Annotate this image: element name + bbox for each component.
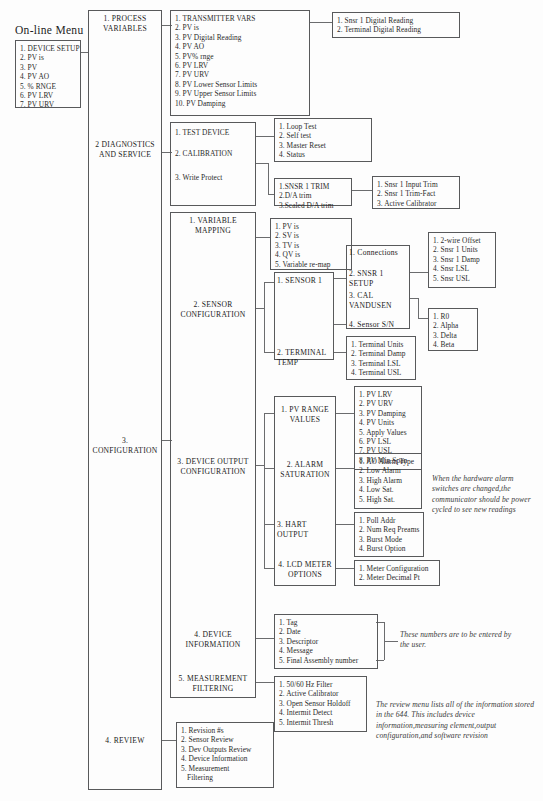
sensor-config-item-sensor1[interactable]: 1. SENSOR 1 — [277, 276, 333, 286]
list-item[interactable]: 1. Snsr 1 Input Trim — [377, 180, 455, 189]
list-item[interactable]: 3. High Alarm — [359, 476, 417, 485]
list-item[interactable]: 3. Dev Outputs Review — [181, 745, 269, 754]
list-item[interactable]: 1. Tag — [279, 618, 373, 627]
list-item[interactable]: 2. Self test — [279, 131, 367, 140]
sensor1-item-cal-vandusen[interactable]: 3. CAL VANDUSEN — [349, 291, 411, 310]
list-item[interactable]: 2. SV is — [275, 231, 347, 240]
list-item[interactable]: 5. Variable re-map — [275, 260, 347, 269]
list-item[interactable]: 10. PV Damping — [175, 99, 305, 108]
list-item[interactable]: 3. Descriptor — [279, 637, 373, 646]
list-item[interactable]: 1. TRANSMITTER VARS — [175, 14, 305, 23]
list-item[interactable]: 6. PV LRV — [20, 91, 76, 100]
list-item[interactable]: 3. PV Digital Reading — [175, 33, 305, 42]
config-item-measurement-filtering[interactable]: 5. MEASUREMENT FILTERING — [170, 674, 256, 693]
sensor1-item-snsr1-setup[interactable]: 2. SNSR 1 SETUP — [349, 269, 409, 288]
list-item[interactable]: 3. PV — [20, 63, 76, 72]
list-item[interactable]: 1. PV LRV — [359, 390, 417, 399]
list-item[interactable]: 2. Meter Decimal Pt — [359, 573, 435, 582]
config-item-variable-mapping[interactable]: 1. VARIABLE MAPPING — [172, 216, 254, 235]
list-item[interactable]: 5. % RNGE — [20, 82, 76, 91]
list-item[interactable]: 3. Open Sensor Holdoff — [279, 699, 362, 708]
list-item[interactable]: 4. PV AO — [20, 72, 76, 81]
list-item[interactable]: 4. Beta — [433, 340, 473, 349]
list-item[interactable]: 2. PV URV — [359, 399, 417, 408]
list-item[interactable]: 7. PV URV — [175, 70, 305, 79]
list-item[interactable]: 4. Snsr LSL — [433, 264, 491, 273]
list-item[interactable]: 1. Loop Test — [279, 122, 367, 131]
list-item[interactable]: 3. Write Protect — [175, 173, 251, 182]
device-output-item-lcd-meter-options[interactable]: 4. LCD METER OPTIONS — [274, 560, 336, 579]
sensor1-item-sensor-sn[interactable]: 4. Sensor S/N — [349, 320, 409, 330]
list-item[interactable]: 4. Intermit Detect — [279, 708, 362, 717]
level1-item-configuration[interactable]: 3. CONFIGURATION — [90, 436, 160, 455]
list-item[interactable]: 5. High Sat. — [359, 495, 417, 504]
list-item[interactable]: 4. QV is — [275, 250, 347, 259]
list-item[interactable]: 5. Snsr USL — [433, 274, 491, 283]
list-item[interactable]: 3. Terminal LSL — [351, 359, 411, 368]
list-item[interactable]: 2. Sensor Review — [181, 735, 269, 744]
list-item[interactable]: 2. CALIBRATION — [175, 149, 251, 158]
list-item[interactable]: 8. PV Lower Sensor Limits — [175, 80, 305, 89]
list-item[interactable]: 1. PV is — [275, 222, 347, 231]
list-item[interactable]: 1. Meter Configuration — [359, 564, 435, 573]
list-item[interactable]: 5. Final Assembly number — [279, 656, 373, 665]
device-output-item-alarm-saturation[interactable]: 2. ALARM SATURATION — [274, 460, 336, 479]
config-item-sensor-configuration[interactable]: 2. SENSOR CONFIGURATION — [172, 300, 254, 319]
list-item[interactable]: 2. Low Alarm — [359, 466, 417, 475]
list-item[interactable]: 2. Num Req Preams — [359, 525, 419, 534]
list-item[interactable]: 3. Master Reset — [279, 141, 367, 150]
list-item[interactable]: 1. 2-wire Offset — [433, 236, 491, 245]
list-item[interactable]: 1. Terminal Units — [351, 340, 411, 349]
list-item[interactable]: 2. Terminal Digital Reading — [337, 25, 455, 34]
list-item[interactable]: 4. Message — [279, 646, 373, 655]
list-item[interactable]: 4. Low Sat. — [359, 485, 417, 494]
list-item[interactable]: 3. TV is — [275, 241, 347, 250]
list-item[interactable]: 2. Terminal Damp — [351, 349, 411, 358]
list-item[interactable]: 2. Alpha — [433, 321, 473, 330]
list-item[interactable]: 1. TEST DEVICE — [175, 128, 251, 137]
list-item[interactable]: 7. PV URV — [20, 100, 76, 109]
list-item[interactable]: 2. Active Calibrator — [279, 689, 362, 698]
list-item[interactable]: 1.SNSR 1 TRIM — [279, 182, 347, 191]
list-item[interactable]: 3. Delta — [433, 331, 473, 340]
config-item-device-information[interactable]: 4. DEVICE INFORMATION — [172, 630, 254, 649]
list-item[interactable]: 2. PV is — [20, 53, 76, 62]
list-item[interactable]: 5. Apply Values — [359, 428, 417, 437]
list-item[interactable]: 3.Scaled D/A trim — [279, 201, 347, 210]
device-output-item-pv-range-values[interactable]: 1. PV RANGE VALUES — [274, 405, 336, 424]
list-item[interactable]: 1. AO Alarm Type — [359, 457, 417, 466]
list-item[interactable]: 4. Terminal USL — [351, 368, 411, 377]
level1-item-process-variables[interactable]: 1. PROCESS VARIABLES — [92, 14, 158, 33]
level1-item-diagnostics[interactable]: 2 DIAGNOSTICS AND SERVICE — [92, 140, 158, 159]
list-item[interactable]: 2.D/A trim — [279, 191, 347, 200]
list-item[interactable]: 2. PV is — [175, 23, 305, 32]
list-item[interactable]: 1. Poll Addr — [359, 516, 419, 525]
list-item[interactable]: 3. Snsr 1 Damp — [433, 255, 491, 264]
list-item[interactable]: 1. Revision #s — [181, 726, 269, 735]
device-output-item-hart-output[interactable]: 3. HART OUTPUT — [277, 520, 337, 539]
list-item[interactable]: 1. 50/60 Hz Filter — [279, 680, 362, 689]
list-item[interactable]: 6. PV LSL — [359, 437, 417, 446]
list-item[interactable]: 2. Date — [279, 627, 373, 636]
list-item[interactable]: 2. Snsr 1 Units — [433, 245, 491, 254]
sensor-config-item-terminal-temp[interactable]: 2. TERMINAL TEMP — [277, 348, 335, 367]
list-item[interactable]: 4. Status — [279, 150, 367, 159]
list-item[interactable]: 5. PV% rnge — [175, 52, 305, 61]
sensor1-item-connections[interactable]: 1. Connections — [349, 248, 409, 258]
config-item-device-output-configuration[interactable]: 3. DEVICE OUTPUT CONFIGURATION — [170, 457, 256, 476]
level1-item-review[interactable]: 4. REVIEW — [92, 736, 158, 746]
list-item[interactable]: 3. PV Damping — [359, 409, 417, 418]
list-item[interactable]: 3. Burst Mode — [359, 535, 419, 544]
list-item[interactable]: 4. Device Information — [181, 754, 269, 763]
list-item[interactable]: 4. Burst Option — [359, 544, 419, 553]
list-item[interactable]: 9. PV Upper Sensor Limits — [175, 89, 305, 98]
list-item[interactable]: 4. PV AO — [175, 42, 305, 51]
list-item[interactable]: 1. R0 — [433, 312, 473, 321]
list-item[interactable]: 4. PV Units — [359, 418, 417, 427]
list-item[interactable]: 5. Measurement — [181, 764, 269, 773]
list-item[interactable]: 6. PV LRV — [175, 61, 305, 70]
list-item[interactable]: 5. Intermit Thresh — [279, 718, 362, 727]
list-item[interactable]: 1. Snsr 1 Digital Reading — [337, 16, 455, 25]
list-item[interactable]: 1. DEVICE SETUP — [20, 44, 76, 53]
list-item[interactable]: 2. Snsr 1 Trim-Fact — [377, 189, 455, 198]
